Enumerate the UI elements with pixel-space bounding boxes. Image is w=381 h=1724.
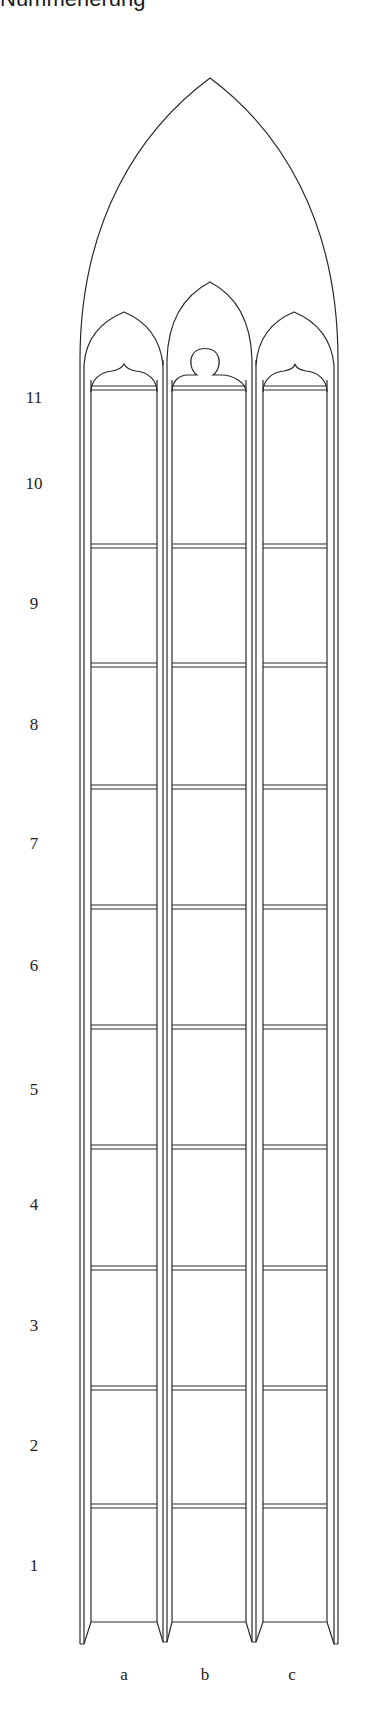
row-label: 6 <box>30 956 39 976</box>
row-label: 1 <box>30 1556 39 1576</box>
lancet-window-drawing <box>0 0 381 1724</box>
row-label: 5 <box>30 1080 39 1100</box>
row-label: 8 <box>30 715 39 735</box>
column-label: c <box>288 1665 296 1685</box>
column-label: a <box>120 1665 128 1685</box>
outer-arch <box>80 78 338 360</box>
row-label: 2 <box>30 1436 39 1456</box>
row-label: 4 <box>30 1195 39 1215</box>
row-label: 3 <box>30 1316 39 1336</box>
transom-bars <box>91 386 327 390</box>
column-label: b <box>201 1665 210 1685</box>
row-label: 9 <box>30 594 39 614</box>
row-label: 7 <box>30 834 39 854</box>
row-label: 11 <box>26 388 42 408</box>
row-label: 10 <box>26 474 43 494</box>
